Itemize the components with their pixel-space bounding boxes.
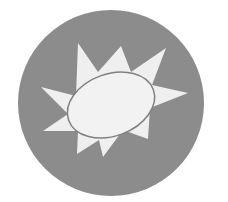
sun-badge xyxy=(0,0,228,202)
sun-icon xyxy=(0,0,228,202)
